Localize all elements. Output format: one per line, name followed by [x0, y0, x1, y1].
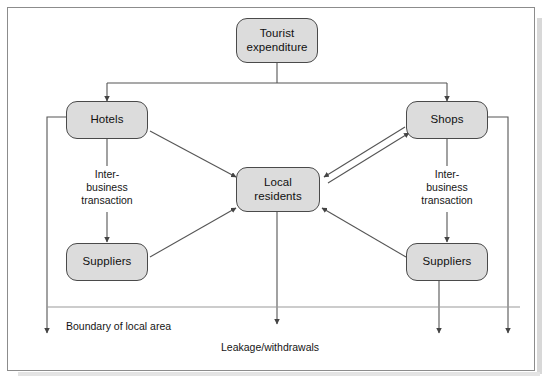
node-suppliers-left[interactable]: Suppliers: [66, 243, 148, 281]
node-suppliers-right[interactable]: Suppliers: [406, 243, 488, 281]
edge-suppliers-right-to-residents: [322, 208, 406, 257]
edge-shops-to-residents: [324, 127, 405, 177]
label-inter-business-right: Inter- business transaction: [414, 168, 480, 207]
edge-hotels-leakage: [47, 117, 66, 333]
label-inter-business-left: Inter- business transaction: [74, 168, 140, 207]
edge-suppliers-left-to-residents: [150, 208, 236, 257]
label-leakage-withdrawals: Leakage/withdrawals: [221, 341, 319, 354]
edge-residents-to-shops: [328, 133, 409, 183]
node-local-residents[interactable]: Local residents: [236, 167, 320, 212]
diagram-canvas: Tourist expenditure Hotels Shops Local r…: [0, 0, 553, 389]
node-tourist-expenditure[interactable]: Tourist expenditure: [236, 18, 318, 63]
edge-shops-leakage: [488, 117, 508, 333]
node-shops[interactable]: Shops: [406, 101, 488, 139]
node-hotels[interactable]: Hotels: [66, 101, 148, 139]
edge-hotels-to-residents: [150, 131, 236, 177]
label-boundary-of-local-area: Boundary of local area: [66, 320, 171, 333]
